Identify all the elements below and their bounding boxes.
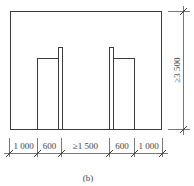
width-label-center-gap: ≥1 500 — [73, 141, 99, 151]
width-label-right-door: 600 — [115, 141, 129, 151]
width-label-left-door: 600 — [43, 141, 57, 151]
right-door-jamb — [110, 48, 114, 130]
left-door-panel — [38, 59, 59, 130]
width-label-right-margin: 1 000 — [138, 141, 159, 151]
height-dimension-label: ≥3 500 — [172, 57, 182, 83]
width-label-left-margin: 1 000 — [13, 141, 34, 151]
layout-diagram: ≥3 500 1 000 600 ≥1 500 600 1 000 (b) — [0, 0, 194, 186]
right-door-panel — [114, 59, 135, 130]
figure-caption: (b) — [83, 173, 94, 183]
left-door-jamb — [59, 48, 63, 130]
outer-frame — [11, 12, 162, 130]
